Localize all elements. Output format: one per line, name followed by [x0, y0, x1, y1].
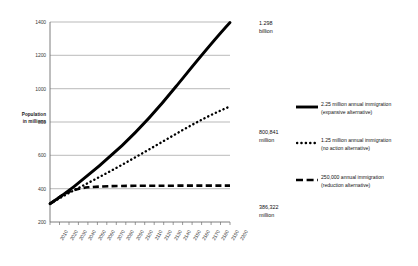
annot-reduction-line2: million — [259, 212, 274, 218]
population-projection-chart: Population in millions 1400 1200 1000 80… — [0, 0, 418, 266]
annot-expansive-line2: billion — [259, 28, 273, 34]
legend-label-reduction: 250,000 annual immigration (reduction al… — [321, 174, 384, 190]
legend-item-no-action[interactable]: 1.25 million annual immigration (no acti… — [296, 137, 391, 153]
legend-label-expansive-line1: 2.25 million annual immigration — [321, 101, 391, 107]
series-line-reduction — [50, 186, 230, 204]
gridlines — [50, 22, 230, 189]
annot-no-action-line2: million — [259, 137, 274, 143]
legend-swatch-dashed — [296, 175, 318, 185]
annot-no-action-line1: 800,841 — [259, 129, 279, 135]
annot-no-action: 800,841 million — [259, 128, 279, 144]
legend-label-no-action: 1.25 million annual immigration (no acti… — [321, 137, 391, 153]
legend-label-reduction-line2: (reduction alternative) — [321, 182, 370, 188]
legend-swatch-dotted — [296, 138, 318, 148]
legend-item-reduction[interactable]: 250,000 annual immigration (reduction al… — [296, 174, 384, 190]
legend-item-expansive[interactable]: 2.25 million annual immigration (expansi… — [296, 101, 391, 117]
legend-label-expansive: 2.25 million annual immigration (expansi… — [321, 101, 391, 117]
legend-label-no-action-line1: 1.25 million annual immigration — [321, 137, 391, 143]
legend-swatch-solid — [296, 102, 318, 112]
plot-area — [0, 0, 418, 266]
annot-expansive-line1: 1.298 — [259, 20, 273, 26]
legend-label-no-action-line2: (no action alternative) — [321, 145, 370, 151]
legend-label-reduction-line1: 250,000 annual immigration — [321, 174, 384, 180]
legend-label-expansive-line2: (expansive alternative) — [321, 109, 372, 115]
annot-expansive: 1.298 billion — [259, 19, 273, 35]
annot-reduction: 386,322 million — [259, 203, 279, 219]
annot-reduction-line1: 386,322 — [259, 204, 279, 210]
series-line-expansive — [50, 23, 230, 204]
